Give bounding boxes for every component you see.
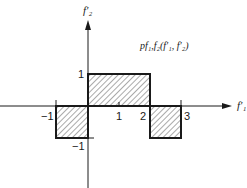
x-tick-label: −1 <box>41 111 54 122</box>
x-axis-label: f′₁ <box>237 100 246 111</box>
region-left-lower <box>56 106 88 138</box>
diagram-canvas <box>0 0 247 188</box>
y-axis-label: f′₂ <box>83 5 92 16</box>
x-tick-label: 1 <box>116 111 122 122</box>
x-tick-label: 3 <box>184 111 190 122</box>
x-axis-arrow-icon <box>222 103 232 109</box>
region-right-lower <box>150 106 181 138</box>
function-label: pf₁,f₂(f′₁, f′₂) <box>140 40 189 51</box>
region-center-upper <box>88 74 150 106</box>
y-tick-label: −1 <box>72 141 85 152</box>
y-tick-label: 1 <box>78 69 84 80</box>
y-axis-arrow-icon <box>85 20 91 30</box>
x-tick-label: 2 <box>140 111 146 122</box>
